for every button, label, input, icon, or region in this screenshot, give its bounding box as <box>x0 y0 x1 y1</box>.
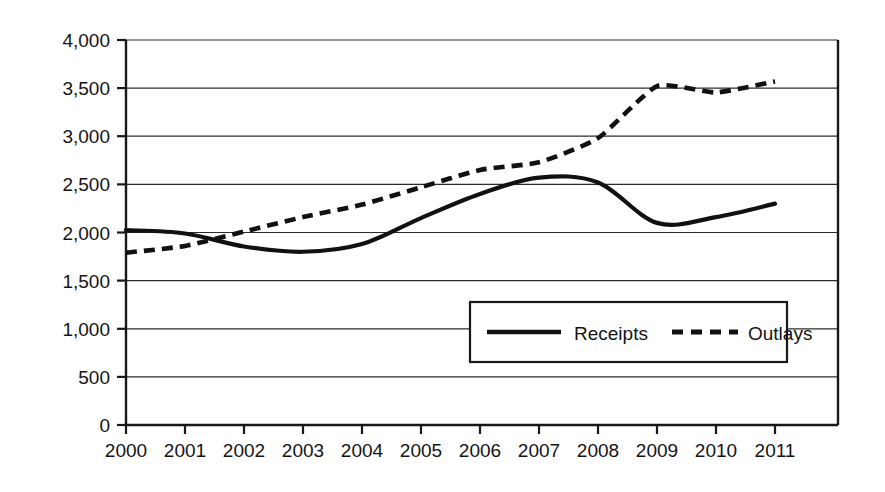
xtick-label-2000: 2000 <box>105 440 147 461</box>
legend-label-outlays: Outlays <box>748 323 812 344</box>
line-chart-figure: 4,000 3,500 3,000 2,500 2,000 1,500 1,00… <box>0 0 885 492</box>
chart-legend: Receipts Outlays <box>470 302 812 362</box>
xtick-label-2007: 2007 <box>518 440 560 461</box>
ytick-label-1500: 1,500 <box>62 271 110 292</box>
ytick-label-2500: 2,500 <box>62 174 110 195</box>
xtick-label-2004: 2004 <box>341 440 384 461</box>
ytick-label-0: 0 <box>99 415 110 436</box>
xtick-label-2008: 2008 <box>577 440 619 461</box>
xtick-label-2009: 2009 <box>636 440 678 461</box>
xtick-label-2011: 2011 <box>755 440 796 461</box>
xtick-label-2003: 2003 <box>282 440 324 461</box>
ytick-label-4000: 4,000 <box>62 30 110 51</box>
ytick-label-3000: 3,000 <box>62 126 110 147</box>
xtick-label-2010: 2010 <box>695 440 737 461</box>
ytick-label-500: 500 <box>78 367 110 388</box>
ytick-label-1000: 1,000 <box>62 319 110 340</box>
xtick-label-2001: 2001 <box>164 440 206 461</box>
xtick-label-2006: 2006 <box>459 440 501 461</box>
ytick-label-3500: 3,500 <box>62 78 110 99</box>
chart-canvas: 4,000 3,500 3,000 2,500 2,000 1,500 1,00… <box>0 0 885 492</box>
xtick-label-2005: 2005 <box>400 440 442 461</box>
chart-background <box>0 0 885 492</box>
xtick-label-2002: 2002 <box>223 440 265 461</box>
ytick-label-2000: 2,000 <box>62 223 110 244</box>
legend-label-receipts: Receipts <box>574 323 648 344</box>
